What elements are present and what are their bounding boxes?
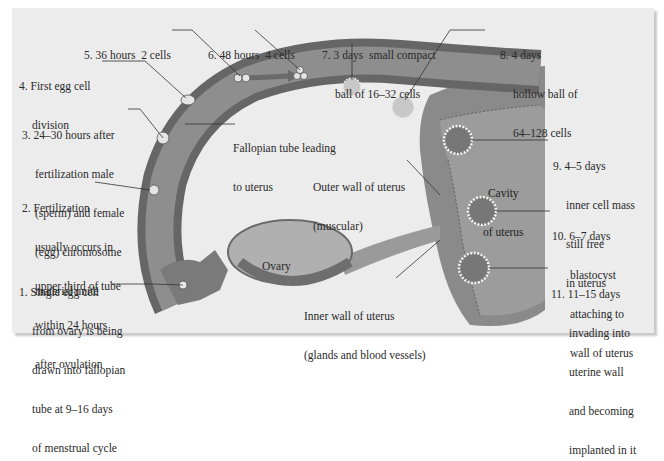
egg-stage-5b — [242, 74, 250, 82]
stage-11-label: 11. 11–15 days invading into uterine wal… — [551, 262, 636, 461]
egg-stage-4 — [181, 95, 195, 105]
cavity-line: Cavity — [483, 187, 524, 200]
stage-1-line: of menstrual cycle — [19, 442, 125, 455]
stage-5-line: 5. 36 hours 2 cells — [84, 49, 171, 62]
direction-arrow — [248, 76, 290, 78]
stage-1-line: tube at 9–16 days — [19, 403, 125, 416]
stage-4-line: division — [19, 119, 91, 132]
inner-wall-line: (glands and blood vessels) — [304, 349, 426, 362]
stage-8-line: hollow ball of — [500, 88, 578, 101]
cavity-label: Cavity of uterus — [483, 161, 524, 252]
stage-3-line: material unite — [22, 285, 124, 298]
stage-11-line: and becoming — [551, 405, 636, 418]
ovary-text: Ovary — [262, 260, 291, 273]
stage-6-line: 6. 48 hours 4 cells — [208, 49, 295, 62]
ovary-label: Ovary — [262, 234, 291, 286]
blastocyst-stage-11 — [459, 253, 489, 283]
outer-wall-line: (muscular) — [313, 220, 405, 233]
stage-11-line: uterine wall — [551, 366, 636, 379]
outer-wall-line: Outer wall of uterus — [313, 181, 405, 194]
stage-9-line: 9. 4–5 days — [553, 160, 635, 173]
stage-11-line: invading into — [551, 327, 636, 340]
fallopian-tube-line: Fallopian tube leading — [233, 142, 336, 155]
stage-2-line: within 24 hours — [22, 319, 121, 332]
inner-wall-label: Inner wall of uterus (glands and blood v… — [304, 284, 426, 375]
stage-3-line: (sperm) and female — [22, 207, 124, 220]
stage-10-line: 10. 6–7 days — [552, 230, 633, 243]
stage-7-line: 7. 3 days small compact — [322, 49, 436, 62]
stage-4-label: 4. First egg cell division — [19, 54, 91, 145]
stage-11-line: implanted in it — [551, 444, 636, 457]
stage-3-line: fertilization male — [22, 168, 124, 181]
stage-6-label: 6. 48 hours 4 cells — [208, 23, 295, 75]
stage-7-label: 7. 3 days small compact ball of 16–32 ce… — [322, 23, 436, 114]
outer-wall-label: Outer wall of uterus (muscular) — [313, 155, 405, 246]
stage-4-line: 4. First egg cell — [19, 80, 91, 93]
cavity-line: of uterus — [483, 226, 524, 239]
stage-7-line: ball of 16–32 cells — [322, 88, 436, 101]
inner-wall-line: Inner wall of uterus — [304, 310, 426, 323]
stage-11-line: 11. 11–15 days — [551, 288, 636, 301]
stage-5-label: 5. 36 hours 2 cells — [84, 23, 171, 75]
egg-stage-5a — [234, 74, 242, 82]
stage-3-line: (egg) chromosome — [22, 246, 124, 259]
stage-2-line: after ovulation — [22, 358, 121, 371]
blastocyst-stage-9 — [444, 126, 472, 154]
stage-8-line: 8. 4 days — [500, 49, 578, 62]
egg-stage-2 — [149, 185, 159, 195]
